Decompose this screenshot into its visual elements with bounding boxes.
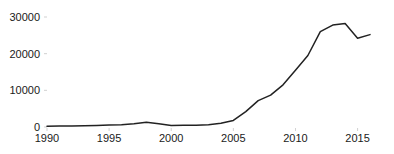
- x-tick-label: 1995: [97, 132, 121, 144]
- x-tick-label: 2005: [221, 132, 245, 144]
- chart-canvas: 0100002000030000 19901995200020052010201…: [0, 0, 394, 154]
- data-series-line: [47, 24, 370, 127]
- x-tick-label: 2010: [283, 132, 307, 144]
- axis-tick-marks: [44, 17, 358, 131]
- x-tick-label: 2015: [345, 132, 369, 144]
- y-tick-label: 20000: [9, 48, 40, 60]
- line-chart: 0100002000030000 19901995200020052010201…: [0, 0, 394, 154]
- y-tick-label: 30000: [9, 11, 40, 23]
- x-tick-label: 2000: [159, 132, 183, 144]
- x-tick-label: 1990: [35, 132, 59, 144]
- x-axis-tick-labels: 199019952000200520102015: [35, 132, 370, 144]
- y-axis-tick-labels: 0100002000030000: [9, 11, 40, 133]
- y-tick-label: 10000: [9, 84, 40, 96]
